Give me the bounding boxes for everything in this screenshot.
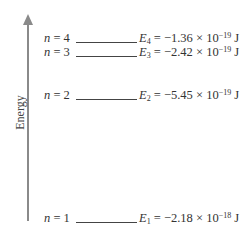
level-n-label: n = 4: [44, 31, 70, 46]
level-n-label: n = 2: [44, 88, 70, 103]
level-energy-label: E4 = −1.36 × 10−19 J: [139, 31, 239, 46]
level-line: [76, 42, 137, 43]
level-energy-label: E2 = −5.45 × 10−19 J: [139, 88, 239, 103]
level-line: [76, 222, 137, 223]
level-n-label: n = 3: [44, 45, 70, 60]
level-n-label: n = 1: [44, 211, 70, 226]
axis-label: Energy: [13, 91, 28, 135]
level-energy-label: E1 = −2.18 × 10−18 J: [139, 211, 239, 226]
level-line: [76, 99, 137, 100]
level-line: [76, 56, 137, 57]
level-energy-label: E3 = −2.42 × 10−19 J: [139, 45, 239, 60]
